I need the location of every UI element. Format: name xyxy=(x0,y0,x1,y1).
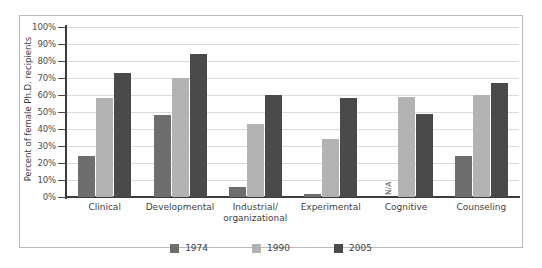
category-label-line: Counseling xyxy=(434,202,529,213)
y-axis-tick-label: 80% xyxy=(16,56,56,66)
legend-item-1990[interactable]: 1990 xyxy=(252,243,290,253)
bar-1990-cognitive[interactable] xyxy=(398,97,415,197)
bar-1990-experimental[interactable] xyxy=(322,139,339,197)
bar-2005-developmental[interactable] xyxy=(190,54,207,197)
gridline xyxy=(67,163,519,164)
category-label-line: organizational xyxy=(208,213,303,224)
y-axis-tick xyxy=(58,78,66,79)
y-axis-tick-label: 60% xyxy=(16,90,56,100)
y-axis-tick xyxy=(58,61,66,62)
y-axis-tick-label: 40% xyxy=(16,124,56,134)
y-axis-tick xyxy=(58,180,66,181)
bar-1974-developmental[interactable] xyxy=(154,115,171,197)
y-axis-tick-label: 30% xyxy=(16,141,56,151)
y-axis-tick xyxy=(58,112,66,113)
y-axis-tick xyxy=(58,95,66,96)
legend-swatch-1974 xyxy=(170,244,179,253)
legend-label-1974: 1974 xyxy=(185,243,208,253)
bar-2005-cognitive[interactable] xyxy=(416,114,433,197)
y-axis-tick xyxy=(58,146,66,147)
y-axis-tick xyxy=(58,27,66,28)
legend-item-1974[interactable]: 1974 xyxy=(170,243,208,253)
legend-item-2005[interactable]: 2005 xyxy=(334,243,372,253)
bar-2005-industrial-organizational[interactable] xyxy=(265,95,282,197)
bar-1990-clinical[interactable] xyxy=(96,98,113,197)
y-axis-tick-label: 50% xyxy=(16,107,56,117)
bar-1990-counseling[interactable] xyxy=(473,95,490,197)
y-axis-tick-label: 20% xyxy=(16,158,56,168)
y-axis-tick xyxy=(58,197,66,198)
legend-swatch-1990 xyxy=(252,244,261,253)
y-axis-tick-label: 0% xyxy=(16,192,56,202)
bar-2005-clinical[interactable] xyxy=(114,73,131,197)
y-axis-tick-label: 70% xyxy=(16,73,56,83)
y-axis-tick xyxy=(58,163,66,164)
gridline xyxy=(67,129,519,130)
gridline xyxy=(67,146,519,147)
legend-label-2005: 2005 xyxy=(349,243,372,253)
bar-na-label: N/A xyxy=(384,182,393,195)
bar-2005-counseling[interactable] xyxy=(491,83,508,197)
bar-1974-clinical[interactable] xyxy=(78,156,95,197)
bar-group xyxy=(229,27,282,197)
gridline xyxy=(67,78,519,79)
gridline xyxy=(67,95,519,96)
plot-area: N/A xyxy=(67,27,519,197)
y-axis-tick-label: 10% xyxy=(16,175,56,185)
gridline xyxy=(67,112,519,113)
bar-1974-experimental[interactable] xyxy=(304,194,321,197)
gridline xyxy=(67,27,519,28)
y-axis-tick-label: 100% xyxy=(16,22,56,32)
bar-group xyxy=(154,27,207,197)
chart-figure: Percent of female Ph.D. recipients 100%9… xyxy=(0,0,542,268)
gridline xyxy=(67,44,519,45)
bar-1990-developmental[interactable] xyxy=(172,78,189,197)
bar-1974-counseling[interactable] xyxy=(455,156,472,197)
y-axis-tick-labels: 100%90%80%70%60%50%40%30%20%10%0% xyxy=(12,0,56,268)
y-axis-tick-label: 90% xyxy=(16,39,56,49)
bar-group: N/A xyxy=(380,27,433,197)
y-axis-tick xyxy=(58,44,66,45)
bar-2005-experimental[interactable] xyxy=(340,98,357,197)
bar-1990-industrial-organizational[interactable] xyxy=(247,124,264,197)
gridline xyxy=(67,180,519,181)
gridline xyxy=(67,61,519,62)
bar-group xyxy=(455,27,508,197)
category-label-counseling: Counseling xyxy=(434,202,529,213)
chart-legend: 197419902005 xyxy=(0,243,542,253)
legend-swatch-2005 xyxy=(334,244,343,253)
bar-group xyxy=(78,27,131,197)
bar-1974-industrial-organizational[interactable] xyxy=(229,187,246,197)
legend-label-1990: 1990 xyxy=(267,243,290,253)
y-axis-tick xyxy=(58,129,66,130)
bar-group xyxy=(304,27,357,197)
